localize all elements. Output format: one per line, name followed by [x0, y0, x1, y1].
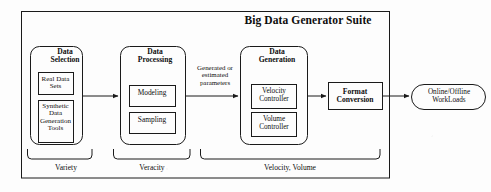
output-workloads-label: Online/OfflineWorkLoads [414, 89, 484, 104]
component-label-synthetic-data-generation-tools: SyntheticDataGenerationTools [39, 103, 72, 132]
component-label-sampling: Sampling [130, 116, 174, 124]
stage-heading-data-selection: DataSelection [34, 48, 96, 64]
component-label-velocity-controller: VelocityController [253, 88, 295, 103]
component-label-modeling: Modeling [130, 89, 174, 97]
component-label-real-data-sets: Real DataSets [39, 76, 72, 91]
diagram-canvas: Big Data Generator Suite DataSelection D… [0, 0, 491, 192]
format-conversion-label: FormatConversion [331, 88, 379, 104]
stage-heading-data-processing: DataProcessing [126, 48, 184, 64]
v-label-variety: Variety [36, 164, 96, 172]
brace-veracity [114, 149, 191, 159]
flow-annotation-parameters: Generated orestimatedparameters [190, 64, 240, 86]
stage-heading-data-generation: DataGeneration [248, 48, 306, 64]
v-label-veracity: Veracity [122, 164, 182, 172]
v-label-velocity-volume: Velocity, Volume [240, 164, 340, 172]
brace-velocity-volume [201, 149, 381, 159]
brace-variety [28, 149, 93, 159]
component-label-volume-controller: VolumeController [253, 116, 295, 131]
suite-title: Big Data Generator Suite [232, 14, 384, 26]
